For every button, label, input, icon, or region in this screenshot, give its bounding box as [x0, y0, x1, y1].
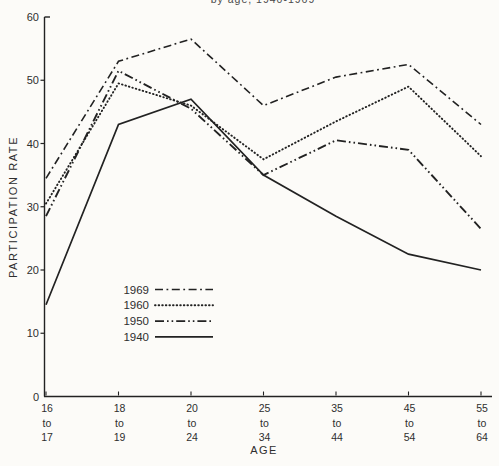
x-tick-label: 44 — [331, 431, 343, 443]
x-tick-label: to — [478, 417, 487, 429]
x-tick-label: 16 — [41, 402, 53, 414]
series-line-1940 — [46, 99, 481, 305]
x-tick-label: 35 — [331, 402, 343, 414]
y-tick-label: 60 — [27, 11, 39, 23]
legend: 1969196019501940 — [123, 284, 213, 343]
x-tick-label: to — [405, 417, 414, 429]
x-tick-label: 24 — [186, 431, 198, 443]
x-tick-label: 34 — [259, 431, 271, 443]
legend-label-1940: 1940 — [123, 331, 149, 343]
y-tick-label: 40 — [27, 138, 39, 150]
x-tick-label: 17 — [41, 431, 53, 443]
x-tick-label: 19 — [114, 431, 126, 443]
x-axis-label: AGE — [250, 444, 278, 456]
y-tick-label: 30 — [27, 201, 39, 213]
x-tick-label: 18 — [114, 402, 126, 414]
y-tick-label: 10 — [27, 327, 39, 339]
chart-canvas: 010203040506016to1718to1920to2425to3435t… — [0, 0, 499, 466]
y-tick-label: 20 — [27, 264, 39, 276]
x-tick-label: 25 — [259, 402, 271, 414]
legend-label-1969: 1969 — [123, 284, 149, 296]
chart-page: by age, 1940-1969 PARTICIPATION RATE 010… — [0, 0, 499, 466]
x-tick-label: to — [260, 417, 269, 429]
y-tick-label: 0 — [33, 391, 39, 403]
legend-label-1960: 1960 — [123, 299, 149, 311]
legend-label-1950: 1950 — [123, 315, 149, 327]
x-tick-label: 45 — [404, 402, 416, 414]
y-tick-label: 50 — [27, 74, 39, 86]
x-tick-label: to — [188, 417, 197, 429]
x-tick-label: to — [115, 417, 124, 429]
x-tick-label: 20 — [186, 402, 198, 414]
x-tick-label: to — [333, 417, 342, 429]
x-tick-label: 54 — [404, 431, 416, 443]
x-tick-label: 55 — [476, 402, 488, 414]
series-line-1969 — [46, 39, 481, 178]
x-tick-label: 64 — [476, 431, 488, 443]
x-tick-label: to — [43, 417, 52, 429]
